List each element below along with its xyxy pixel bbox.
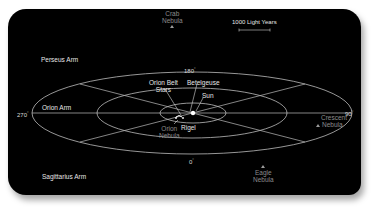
degree-180-label: 180° <box>184 65 196 75</box>
degree-0-label: 0° <box>189 156 194 166</box>
sun-pointer <box>196 98 203 111</box>
scale-bar-label: 1000 Light Years <box>232 19 277 26</box>
crescent-nebula-marker-icon <box>316 124 320 127</box>
orion-arm-label: Orion Arm <box>42 104 71 111</box>
eagle-nebula-label: EagleNebula <box>253 164 274 183</box>
betelgeuse-label: Betelgeuse <box>187 79 220 86</box>
rigel-label: Rigel <box>181 124 196 131</box>
galactic-rings-diagram <box>8 9 361 195</box>
eagle-nebula-marker-icon <box>261 165 265 168</box>
perseus-arm-label: Perseus Arm <box>41 56 78 63</box>
orion-nebula-label: OrionNebula <box>159 125 180 139</box>
crab-nebula-marker-icon <box>170 25 174 28</box>
crescent-nebula-label: Crescent Nebula <box>321 114 348 128</box>
orion-belt-stars-label: Orion BeltStars <box>149 79 178 93</box>
sagittarius-arm-label: Sagittarius Arm <box>42 173 86 180</box>
crab-nebula-label: CrabNebula <box>162 10 183 28</box>
sun-marker <box>191 111 195 115</box>
sun-label: Sun <box>202 92 214 99</box>
galaxy-map-card: 1000 Light Years Perseus Arm Orion Arm S… <box>8 9 361 195</box>
degree-270-label: 270° <box>17 109 29 119</box>
